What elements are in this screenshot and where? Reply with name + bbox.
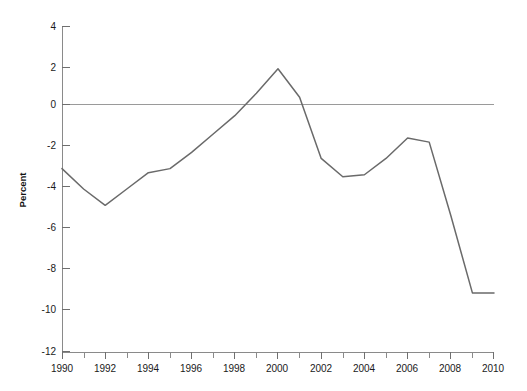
y-axis-title: Percent xyxy=(17,172,28,208)
x-tick-label: 2004 xyxy=(353,363,376,374)
x-tick-label: 2010 xyxy=(482,363,505,374)
x-tick-label: 2008 xyxy=(439,363,462,374)
x-tick-label: 2000 xyxy=(266,363,289,374)
y-tick-label: -2 xyxy=(47,140,56,151)
chart-container: 4 2 0 -2 -4 -6 -8 -10 -12 Percent xyxy=(0,0,527,391)
y-tick-label: 4 xyxy=(50,21,56,32)
y-tick-label: 0 xyxy=(50,99,56,110)
x-tick-label: 1996 xyxy=(180,363,203,374)
x-tick-label: 2006 xyxy=(396,363,419,374)
y-tick-label: -12 xyxy=(42,346,57,357)
data-series-percent xyxy=(62,69,494,293)
y-tick-label: -6 xyxy=(47,222,56,233)
x-tick-label: 1990 xyxy=(51,363,74,374)
line-chart: 4 2 0 -2 -4 -6 -8 -10 -12 Percent xyxy=(0,0,527,391)
x-tick-label: 1992 xyxy=(94,363,117,374)
y-tick-marks xyxy=(62,27,70,352)
x-tick-label: 2002 xyxy=(310,363,333,374)
x-tick-label: 1994 xyxy=(137,363,160,374)
y-tick-label: -8 xyxy=(47,263,56,274)
y-tick-label: -4 xyxy=(47,181,56,192)
y-tick-label: 2 xyxy=(50,62,56,73)
y-tick-label: -10 xyxy=(42,304,57,315)
x-tick-label: 1998 xyxy=(223,363,246,374)
